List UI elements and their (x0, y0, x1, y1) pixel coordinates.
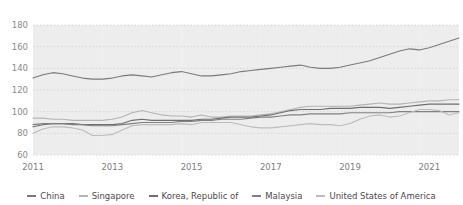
legend-item[interactable]: Singapore (79, 191, 135, 201)
y-axis-tick-label: 120 (12, 85, 28, 95)
x-axis-tick-label: 2011 (22, 162, 44, 172)
y-axis-tick-label: 100 (12, 107, 28, 117)
legend-item-label: Malaysia (265, 191, 302, 201)
y-axis-tick-label: 160 (12, 42, 28, 52)
legend-item-label: China (40, 191, 64, 201)
y-axis-tick-label: 60 (17, 150, 28, 160)
x-axis-tick-label: 2013 (101, 162, 123, 172)
y-axis-tick-label: 80 (17, 128, 28, 138)
legend-item-label: Korea, Republic of (162, 191, 239, 201)
chart-plot-area: 6080100120140160180201120132015201720192… (0, 0, 463, 205)
chart-legend: ChinaSingaporeKorea, Republic ofMalaysia… (0, 191, 463, 201)
legend-swatch-icon (316, 195, 325, 197)
y-axis-tick-label: 140 (12, 63, 28, 73)
legend-swatch-icon (27, 195, 36, 197)
x-axis-tick-label: 2015 (181, 162, 203, 172)
legend-item-label: United States of America (329, 191, 435, 201)
legend-item-label: Singapore (92, 191, 135, 201)
legend-item[interactable]: United States of America (316, 191, 435, 201)
x-axis-tick-label: 2019 (339, 162, 361, 172)
line-chart: 6080100120140160180201120132015201720192… (0, 0, 463, 205)
legend-swatch-icon (252, 195, 261, 197)
legend-item[interactable]: China (27, 191, 64, 201)
legend-swatch-icon (79, 195, 88, 197)
x-axis-tick-label: 2017 (260, 162, 282, 172)
y-axis-tick-label: 180 (12, 20, 28, 30)
x-axis-tick-label: 2021 (418, 162, 440, 172)
legend-item[interactable]: Malaysia (252, 191, 302, 201)
legend-item[interactable]: Korea, Republic of (149, 191, 239, 201)
year-band (182, 25, 261, 155)
legend-swatch-icon (149, 195, 158, 197)
